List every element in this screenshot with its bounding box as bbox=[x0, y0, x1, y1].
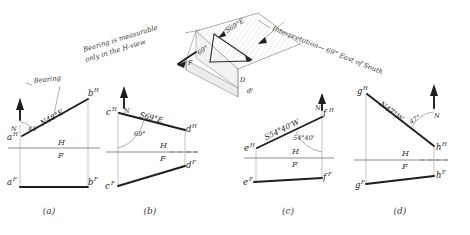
angle-label-b: 69° bbox=[134, 130, 146, 138]
angle-label-a: 48° bbox=[27, 125, 40, 133]
point-label-hh: h bbox=[436, 142, 441, 152]
point-sup-ah: H bbox=[12, 131, 18, 137]
angle-label-d: 47° bbox=[407, 113, 422, 126]
point-label-eh: e bbox=[244, 143, 249, 153]
point-label-cf: c bbox=[105, 181, 110, 191]
fold-label-f-d: F bbox=[401, 162, 408, 171]
fold-label-h-c: H bbox=[291, 147, 300, 156]
note-h-view: Bearing is measurable only in the H-view bbox=[81, 24, 200, 64]
panel-caption-d: (d) bbox=[394, 206, 407, 216]
point-label-bf: b bbox=[88, 177, 93, 187]
north-label-c: N bbox=[314, 104, 321, 112]
angle-label-c: 54°40' bbox=[293, 134, 315, 142]
point-label-af: a bbox=[7, 177, 12, 187]
panel-caption-b: (b) bbox=[144, 206, 157, 216]
point-sup-ef: F bbox=[248, 176, 253, 182]
panel-a: H F N 48° N48°E Bearing a H b H a F b F … bbox=[7, 74, 100, 216]
panel-b: H F N 69° S69°E c H d H c F d F (b) bbox=[105, 86, 198, 216]
panel-caption-a: (a) bbox=[43, 206, 56, 216]
point-sup-eh: H bbox=[249, 142, 255, 148]
point-sup-gh: H bbox=[362, 85, 368, 91]
point-sup-gf: F bbox=[360, 179, 365, 185]
fold-label-h-b: H bbox=[159, 141, 168, 150]
point-sup-hh: H bbox=[441, 141, 447, 147]
callout-bearing-text: Bearing bbox=[32, 74, 62, 85]
pictorial-label-F: F bbox=[187, 59, 193, 67]
panel-caption-c: (c) bbox=[282, 206, 295, 216]
point-label-hf: h bbox=[436, 170, 441, 180]
bearing-label-d: N47°W bbox=[377, 99, 406, 124]
bearing-label-b: S69°E bbox=[139, 110, 165, 125]
point-label-bh: b bbox=[88, 88, 93, 98]
point-sup-cf: F bbox=[110, 180, 115, 186]
panel-c: H F N 54°40' S54°40'W e H f H e F f F (c… bbox=[243, 93, 334, 216]
pictorial-3d-block: S69°E 69° F D dᶠ bbox=[177, 13, 300, 97]
point-sup-af: F bbox=[12, 176, 17, 182]
pictorial-label-D: D bbox=[239, 76, 246, 84]
point-sup-fh: H bbox=[328, 107, 334, 113]
point-sup-ff: F bbox=[327, 171, 332, 177]
fold-label-f-b: F bbox=[159, 154, 166, 163]
point-sup-df: F bbox=[191, 159, 196, 165]
point-sup-ch: H bbox=[111, 106, 117, 112]
panel-d: H F N 47° N47°W g H h H g F h F (d) bbox=[354, 84, 448, 216]
point-sup-bf: F bbox=[93, 176, 98, 182]
fold-label-f-c: F bbox=[291, 160, 298, 169]
point-sup-hf: F bbox=[441, 169, 446, 175]
pictorial-label-df: dᶠ bbox=[247, 87, 254, 95]
point-sup-dh: H bbox=[191, 123, 197, 129]
fold-label-h-a: H bbox=[57, 138, 66, 147]
north-label-b: N bbox=[123, 107, 130, 115]
point-label-ef: e bbox=[243, 177, 248, 187]
fold-label-f-a: F bbox=[57, 151, 64, 160]
note-interpretation-text: Interpretation— 69° East of South bbox=[270, 24, 384, 76]
point-label-ah: a bbox=[7, 132, 12, 142]
bearing-label-a: N48°E bbox=[38, 107, 66, 128]
point-label-ch: c bbox=[106, 107, 111, 117]
fold-label-h-d: H bbox=[401, 149, 410, 158]
point-label-fh: f bbox=[322, 108, 328, 118]
point-sup-bh: H bbox=[93, 87, 99, 93]
north-label-d: N bbox=[433, 112, 440, 120]
drawing-sheet: S69°E 69° F D dᶠ Bearing is measurable o… bbox=[0, 0, 470, 235]
